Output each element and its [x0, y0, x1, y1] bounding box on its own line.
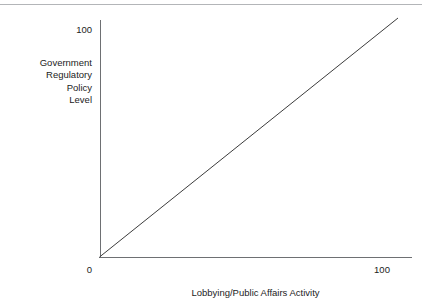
- y-axis-title-line-1: Government: [0, 57, 92, 69]
- y-axis-title: Government Regulatory Policy Level: [0, 57, 92, 107]
- plot-series-layer: [0, 0, 422, 306]
- y-axis-title-line-3: Policy: [0, 82, 92, 94]
- chart-figure: 100 0 100 Government Regulatory Policy L…: [0, 0, 422, 306]
- x-axis-tick-label-100: 100: [362, 264, 402, 275]
- x-axis-title: Lobbying/Public Affairs Activity: [99, 287, 412, 299]
- series-line-linear: [100, 18, 399, 257]
- y-axis-title-line-4: Level: [0, 94, 92, 106]
- x-axis-tick-label-0: 0: [62, 264, 92, 275]
- y-axis-tick-label-100: 100: [52, 24, 92, 35]
- y-axis-title-line-2: Regulatory: [0, 69, 92, 81]
